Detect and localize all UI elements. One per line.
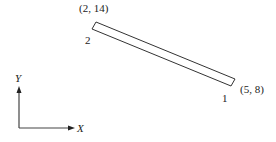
y-axis-arrowhead-icon (17, 86, 22, 93)
node-2-coordinates: (2, 14) (79, 2, 109, 15)
node-2-label: 2 (85, 34, 91, 46)
node-1-label: 1 (222, 92, 228, 104)
node-1-coordinates: (5, 8) (240, 83, 264, 96)
x-axis-arrowhead-icon (68, 126, 75, 131)
y-axis-label: Y (15, 72, 23, 84)
bar-element (92, 22, 235, 86)
diagram-canvas: (2, 14) 2 (5, 8) 1 Y X (0, 0, 276, 142)
x-axis-label: X (76, 122, 85, 134)
